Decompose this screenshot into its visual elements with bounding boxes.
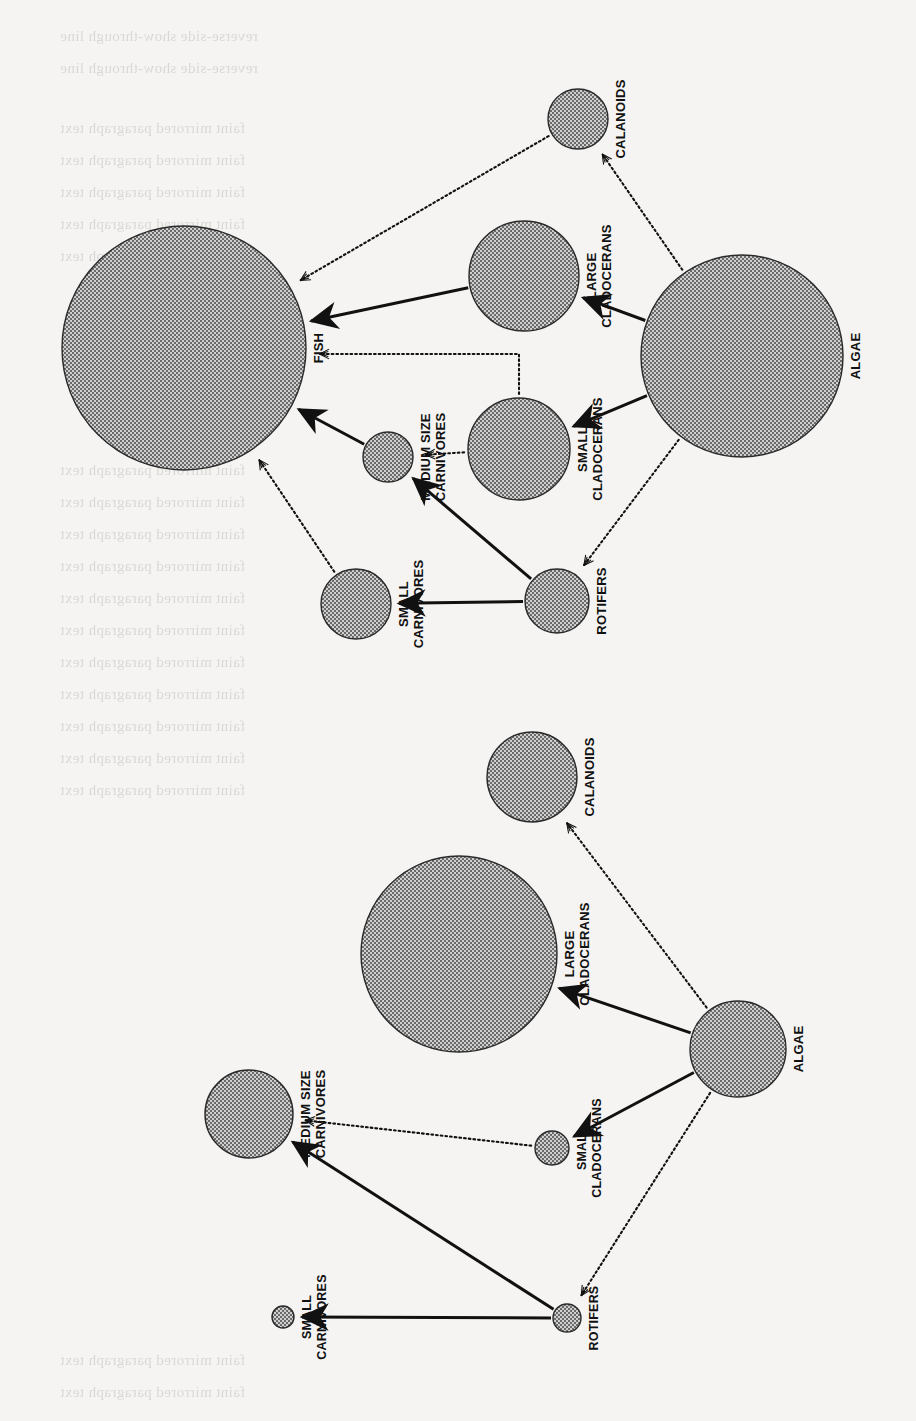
food-web-svg: FISHCALANOIDSLARGECLADOCERANSALGAESMALLC…: [0, 0, 916, 1421]
node-label-algae2: ALGAE: [791, 1026, 806, 1073]
node-label-group-rotifers2: ROTIFERS: [587, 1286, 601, 1351]
node-circle-algae2: [690, 1001, 786, 1097]
node-label-largeclad2: LARGE: [562, 931, 577, 978]
node-algae: [641, 255, 843, 457]
node-circle-calanoids: [548, 89, 608, 149]
node-label-group-medcarn2: MEDIUM SIZECARNIVORES: [298, 1070, 329, 1159]
node-circle-rotifers: [525, 569, 589, 633]
edge-smallcarn-to-fish: [259, 460, 334, 572]
edge-rotifers2-to-medcarn2: [293, 1142, 554, 1309]
node-label-group-calanoids: CALANOIDS: [613, 79, 628, 158]
node-label-smallcarn: CARNIVORES: [411, 560, 426, 649]
node-calanoids: [548, 89, 608, 149]
node-label-medcarn2: CARNIVORES: [313, 1070, 328, 1159]
node-label-calanoids: CALANOIDS: [613, 79, 628, 158]
node-label-smallcarn2: SMALL: [300, 1295, 314, 1339]
node-circle-smallcarn2: [272, 1306, 294, 1328]
node-calanoids2: [487, 732, 577, 822]
node-smallclad2: [535, 1131, 569, 1165]
nodes-layer: [62, 89, 843, 1332]
node-label-algae: ALGAE: [848, 333, 863, 380]
edge-rotifers2-to-smallcarn2: [302, 1317, 551, 1318]
node-label-largeclad: LARGE: [584, 253, 599, 300]
edge-algae-to-largeclad: [583, 298, 645, 321]
food-web-figure: FISHCALANOIDSLARGECLADOCERANSALGAESMALLC…: [0, 0, 916, 1421]
node-label-group-calanoids2: CALANOIDS: [582, 737, 597, 816]
node-label-rotifers2: ROTIFERS: [587, 1286, 601, 1351]
node-label-smallclad2: CLADOCERANS: [590, 1098, 604, 1197]
node-medcarn2: [205, 1070, 293, 1158]
edge-algae-to-smallclad: [573, 396, 646, 427]
node-circle-largeclad2: [361, 856, 557, 1052]
node-rotifers: [525, 569, 589, 633]
node-circle-medcarn: [363, 432, 413, 482]
node-fish: [62, 226, 306, 470]
node-label-smallclad: CLADOCERANS: [590, 397, 605, 500]
node-label-smallclad2: SMALL: [575, 1126, 589, 1170]
node-circle-fish: [62, 226, 306, 470]
node-label-medcarn: CARNIVORES: [433, 413, 448, 502]
node-circle-smallclad: [468, 398, 570, 500]
edge-algae-to-calanoids: [602, 154, 682, 269]
node-label-medcarn: MEDIUM SIZE: [418, 413, 433, 501]
node-label-smallcarn2: CARNIVORES: [315, 1274, 329, 1359]
node-medcarn: [363, 432, 413, 482]
node-circle-algae: [641, 255, 843, 457]
node-circle-calanoids2: [487, 732, 577, 822]
node-label-fish: FISH: [311, 333, 326, 363]
node-algae2: [690, 1001, 786, 1097]
node-smallcarn: [321, 569, 391, 639]
edge-smallclad-to-fish: [320, 354, 519, 394]
node-largeclad2: [361, 856, 557, 1052]
node-circle-smallcarn: [321, 569, 391, 639]
node-label-group-rotifers: ROTIFERS: [594, 567, 609, 634]
node-circle-medcarn2: [205, 1070, 293, 1158]
node-circle-smallclad2: [535, 1131, 569, 1165]
node-label-group-smallclad: SMALLCLADOCERANS: [575, 397, 606, 500]
node-label-group-fish: FISH: [311, 333, 326, 363]
node-label-rotifers: ROTIFERS: [594, 567, 609, 634]
node-label-smallcarn: SMALL: [396, 581, 411, 627]
node-largeclad: [469, 221, 579, 331]
node-label-group-smallcarn: SMALLCARNIVORES: [396, 560, 427, 649]
node-label-group-smallcarn2: SMALLCARNIVORES: [300, 1274, 329, 1359]
node-label-calanoids2: CALANOIDS: [582, 737, 597, 816]
edge-smallclad2-to-medcarn2: [306, 1120, 531, 1145]
node-label-group-smallclad2: SMALLCLADOCERANS: [575, 1098, 604, 1197]
edge-largeclad-to-fish: [311, 288, 468, 321]
node-label-medcarn2: MEDIUM SIZE: [298, 1070, 313, 1158]
node-label-largeclad2: CLADOCERANS: [577, 902, 592, 1005]
node-label-smallclad: SMALL: [575, 426, 590, 472]
node-label-group-algae2: ALGAE: [791, 1026, 806, 1073]
node-rotifers2: [553, 1304, 581, 1332]
node-smallcarn2: [272, 1306, 294, 1328]
edge-medcarn-to-fish: [299, 409, 365, 444]
node-label-group-largeclad: LARGECLADOCERANS: [584, 224, 615, 327]
node-label-largeclad: CLADOCERANS: [599, 224, 614, 327]
node-label-group-medcarn: MEDIUM SIZECARNIVORES: [418, 413, 449, 502]
node-circle-largeclad: [469, 221, 579, 331]
node-label-group-algae: ALGAE: [848, 333, 863, 380]
node-circle-rotifers2: [553, 1304, 581, 1332]
node-smallclad: [468, 398, 570, 500]
